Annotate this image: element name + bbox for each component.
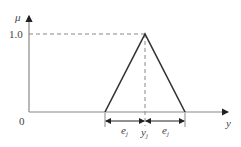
left-width-label: ej — [121, 124, 128, 138]
y-axis-label: μ — [14, 11, 21, 23]
x-axis-label: y — [225, 117, 231, 129]
center-label: yj — [140, 126, 148, 140]
origin-label: 0 — [19, 115, 25, 127]
right-width-label: ej — [162, 124, 169, 138]
peak-value-label: 1.0 — [9, 28, 23, 40]
membership-function-diagram: μ 1.0 0 y ej yj ej — [0, 0, 241, 147]
